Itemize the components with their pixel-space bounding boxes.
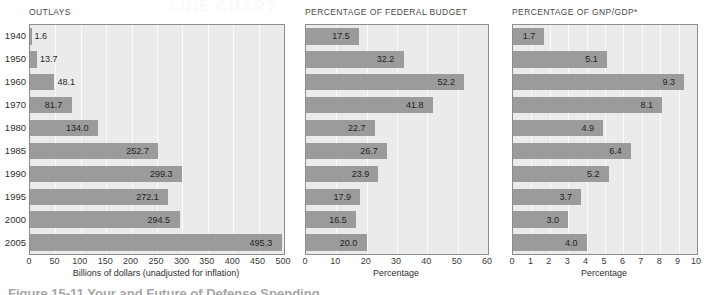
panel-percentage-gnp-gdp: PERCENTAGE OF GNP/GDP* 1.75.19.38.14.96.…	[512, 0, 698, 285]
xtick-label: 6	[620, 256, 625, 266]
xtick-label: 0	[302, 256, 307, 266]
bar-value-label: 252.7	[126, 146, 149, 156]
xtick-label: 400	[225, 256, 240, 266]
bars-percentage-federal-budget: 17.532.252.241.822.726.723.917.916.520.0	[306, 25, 488, 254]
bar-row: 4.0	[513, 234, 697, 250]
xtick-label: 40	[421, 256, 431, 266]
plot-area-percentage-federal-budget: 17.532.252.241.822.726.723.917.916.520.0	[305, 24, 489, 255]
panel-outlays: OUTLAYS 1.613.748.181.7134.0252.7299.327…	[29, 0, 285, 285]
xtick-label: 150	[98, 256, 113, 266]
bar	[30, 234, 282, 250]
bar-value-label: 3.0	[547, 215, 560, 225]
bar	[513, 211, 568, 227]
bar-row: 17.9	[306, 189, 488, 205]
xaxis-title-percentage-federal-budget: Percentage	[305, 268, 487, 278]
xtick-label: 500	[275, 256, 290, 266]
bar-row: 23.9	[306, 166, 488, 182]
bar-row: 13.7	[30, 51, 284, 67]
bar-value-label: 4.9	[582, 123, 595, 133]
bar-value-label: 3.7	[559, 192, 572, 202]
bar-value-label: 5.1	[585, 54, 598, 64]
bar-row: 6.4	[513, 143, 697, 159]
xaxis-title-percentage-gnp-gdp: Percentage	[512, 268, 696, 278]
bar-row: 1.7	[513, 28, 697, 44]
bar-value-label: 1.7	[523, 31, 536, 41]
year-label: 1960	[5, 76, 26, 87]
xtick-label: 200	[123, 256, 138, 266]
year-label: 1970	[5, 99, 26, 110]
bar-value-label: 17.5	[332, 31, 350, 41]
bar-row: 81.7	[30, 97, 284, 113]
bar-value-label: 20.0	[340, 238, 358, 248]
bar-row: 299.3	[30, 166, 284, 182]
bar-row: 20.0	[306, 234, 488, 250]
gridline	[488, 25, 489, 254]
figure-caption: Figure 15-11 Your and Future of Defense …	[8, 286, 320, 295]
xtick-label: 1	[528, 256, 533, 266]
bar	[306, 234, 367, 250]
bars-outlays: 1.613.748.181.7134.0252.7299.3272.1294.5…	[30, 25, 284, 254]
bar-value-label: 22.7	[348, 123, 366, 133]
panel-title-percentage-gnp-gdp: PERCENTAGE OF GNP/GDP*	[512, 7, 638, 17]
xtick-label: 350	[199, 256, 214, 266]
bars-percentage-gnp-gdp: 1.75.19.38.14.96.45.23.73.04.0	[513, 25, 697, 254]
xtick-label: 50	[49, 256, 59, 266]
bar-row: 3.0	[513, 211, 697, 227]
bar	[30, 28, 32, 44]
bar-row: 495.3	[30, 234, 284, 250]
bar-value-label: 1.6	[35, 31, 48, 41]
xtick-label: 8	[657, 256, 662, 266]
bar-value-label: 299.3	[150, 169, 173, 179]
bar-row: 41.8	[306, 97, 488, 113]
year-label: 1985	[5, 144, 26, 155]
bar-row: 134.0	[30, 120, 284, 136]
gridline	[284, 25, 285, 254]
bar-row: 26.7	[306, 143, 488, 159]
panel-percentage-federal-budget: PERCENTAGE OF FEDERAL BUDGET 17.532.252.…	[305, 0, 489, 285]
xtick-label: 300	[174, 256, 189, 266]
xtick-label: 0	[509, 256, 514, 266]
xaxis-title-outlays: Billions of dollars (unadjusted for infl…	[29, 268, 283, 278]
bar	[30, 51, 37, 67]
bar-row: 252.7	[30, 143, 284, 159]
bar-row: 32.2	[306, 51, 488, 67]
bar-row: 16.5	[306, 211, 488, 227]
xtick-label: 60	[482, 256, 492, 266]
xtick-label: 20	[361, 256, 371, 266]
plot-area-percentage-gnp-gdp: 1.75.19.38.14.96.45.23.73.04.0	[512, 24, 698, 255]
plot-area-outlays: 1.613.748.181.7134.0252.7299.3272.1294.5…	[29, 24, 285, 255]
bar-value-label: 6.4	[609, 146, 622, 156]
bar-row: 1.6	[30, 28, 284, 44]
bar	[30, 74, 54, 90]
figure-defense-spending: LINE CHART 19401950196019701980198519901…	[0, 0, 704, 295]
xtick-label: 250	[148, 256, 163, 266]
bar-row: 48.1	[30, 74, 284, 90]
bar-value-label: 48.1	[57, 77, 75, 87]
xtick-label: 9	[675, 256, 680, 266]
xtick-label: 5	[601, 256, 606, 266]
xtick-label: 10	[330, 256, 340, 266]
bar-value-label: 294.5	[148, 215, 171, 225]
bar-value-label: 495.3	[250, 238, 273, 248]
bar-row: 5.2	[513, 166, 697, 182]
xtick-label: 2	[546, 256, 551, 266]
bar-value-label: 16.5	[329, 215, 347, 225]
year-label: 1995	[5, 190, 26, 201]
year-label: 1980	[5, 122, 26, 133]
bar-row: 9.3	[513, 74, 697, 90]
bar-row: 17.5	[306, 28, 488, 44]
bar-row: 294.5	[30, 211, 284, 227]
year-label: 2005	[5, 236, 26, 247]
year-label: 1940	[5, 30, 26, 41]
xtick-label: 4	[583, 256, 588, 266]
bar-value-label: 81.7	[45, 100, 63, 110]
bar-value-label: 8.1	[640, 100, 653, 110]
bar-row: 8.1	[513, 97, 697, 113]
xtick-label: 50	[452, 256, 462, 266]
year-label: 1950	[5, 53, 26, 64]
bar-row: 272.1	[30, 189, 284, 205]
bar-value-label: 5.2	[587, 169, 600, 179]
panel-title-outlays: OUTLAYS	[29, 7, 71, 17]
xtick-label: 450	[250, 256, 265, 266]
bar-value-label: 9.3	[663, 77, 676, 87]
